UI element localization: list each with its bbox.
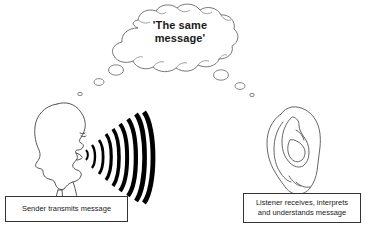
thought-trail-right (214, 70, 255, 97)
sound-wave-arcs (86, 112, 153, 203)
thought-trail-right-dot-large (214, 70, 229, 80)
thought-bubble-text-line-2: message' (128, 32, 232, 45)
thought-bubble-text: 'The same message' (128, 19, 232, 45)
thought-bubble-text-line-1: 'The same (128, 19, 232, 32)
listener-ear (267, 107, 320, 194)
sender-caption-text: Sender transmits message (22, 204, 111, 214)
thought-trail-left-dot-small (78, 92, 83, 95)
thought-trail-right-dot-small (250, 93, 254, 96)
thought-trail-left (78, 65, 124, 96)
thought-trail-left-dot-large (109, 65, 124, 75)
thought-trail-left-dot-medium (94, 79, 104, 86)
sender-caption-box: Sender transmits message (5, 196, 128, 222)
thought-trail-right-dot-medium (235, 83, 245, 90)
listener-caption-line-1: Listener receives, interprets (256, 198, 348, 208)
listener-caption-text: Listener receives, interprets and unders… (256, 198, 348, 218)
listener-caption-box: Listener receives, interprets and unders… (243, 193, 361, 223)
listener-caption-line-2: and understands message (256, 208, 348, 218)
communication-diagram: 'The same message' Sender transmits mess… (0, 0, 365, 240)
